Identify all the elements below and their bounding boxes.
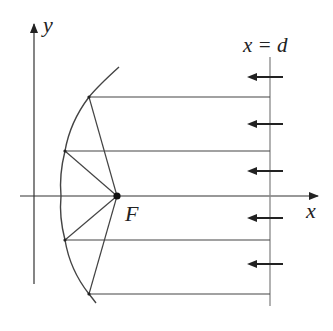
left-arrow-icon: [247, 73, 283, 81]
reflected-ray-4: [89, 196, 117, 294]
left-arrow-icon: [247, 260, 283, 268]
reflected-ray-1: [89, 97, 117, 196]
mirror-arc: [61, 67, 120, 303]
directrix-label: x = d: [243, 35, 288, 56]
left-arrow-icon: [247, 120, 283, 128]
left-arrow-icon: [247, 214, 283, 222]
direction-arrows: [247, 73, 283, 268]
reflected-ray-3: [65, 196, 117, 240]
left-arrow-icon: [247, 167, 283, 175]
y-axis-label: y: [43, 14, 53, 36]
x-axis-label: x: [306, 200, 316, 222]
focus-point: [113, 192, 120, 199]
parabolic-mirror-diagram: y x F x = d: [0, 0, 333, 331]
reflected-ray-2: [65, 151, 117, 196]
focus-label: F: [125, 203, 138, 225]
